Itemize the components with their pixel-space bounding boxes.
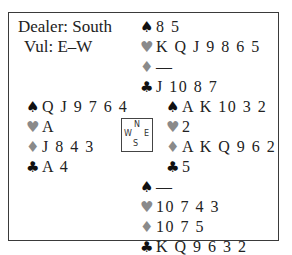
west-hearts-cards: A: [42, 118, 55, 135]
compass-south: S: [133, 140, 138, 148]
south-diamonds: ♦10 7 5: [140, 217, 248, 237]
dealer-label: Dealer: South: [18, 17, 112, 37]
north-hearts-cards: K Q J 9 8 6 5: [156, 38, 261, 55]
north-diamonds-cards: —: [156, 58, 174, 75]
heart-icon: ♥: [140, 37, 156, 57]
east-spades: ♠A K 10 3 2: [166, 97, 276, 117]
vulnerability-label: Vul: E–W: [18, 37, 112, 57]
deal-info: Dealer: South Vul: E–W: [18, 17, 112, 57]
compass-west: W: [124, 130, 132, 138]
north-hand: ♠8 5 ♥K Q J 9 8 6 5 ♦— ♣J 10 8 7: [140, 17, 261, 97]
club-icon: ♣: [140, 77, 156, 97]
west-clubs-cards: A 4: [42, 158, 69, 175]
north-spades: ♠8 5: [140, 17, 261, 37]
diamond-icon: ♦: [140, 217, 156, 237]
south-clubs: ♣K Q 9 6 3 2: [140, 237, 248, 255]
east-hearts: ♥2: [166, 117, 276, 137]
club-icon: ♣: [140, 237, 156, 255]
diamond-icon: ♦: [140, 57, 156, 77]
west-diamonds-cards: J 8 4 3: [42, 138, 95, 155]
east-clubs-cards: 5: [182, 158, 192, 175]
north-clubs-cards: J 10 8 7: [156, 78, 218, 95]
west-spades: ♠Q J 9 7 6 4: [26, 97, 128, 117]
spade-icon: ♠: [166, 97, 182, 117]
south-clubs-cards: K Q 9 6 3 2: [156, 238, 248, 255]
west-spades-cards: Q J 9 7 6 4: [42, 98, 128, 115]
north-hearts: ♥K Q J 9 8 6 5: [140, 37, 261, 57]
compass-box: N W E S: [121, 118, 153, 152]
east-spades-cards: A K 10 3 2: [182, 98, 267, 115]
west-hearts: ♥A: [26, 117, 128, 137]
west-diamonds: ♦J 8 4 3: [26, 137, 128, 157]
south-spades: ♠—: [140, 177, 248, 197]
diamond-icon: ♦: [166, 137, 182, 157]
east-hearts-cards: 2: [182, 118, 192, 135]
spade-icon: ♠: [140, 177, 156, 197]
heart-icon: ♥: [140, 197, 156, 217]
west-clubs: ♣A 4: [26, 157, 128, 177]
south-hearts-cards: 10 7 4 3: [156, 198, 220, 215]
north-spades-cards: 8 5: [156, 18, 181, 35]
west-hand: ♠Q J 9 7 6 4 ♥A ♦J 8 4 3 ♣A 4: [26, 97, 128, 177]
spade-icon: ♠: [140, 17, 156, 37]
diamond-icon: ♦: [26, 137, 42, 157]
club-icon: ♣: [166, 157, 182, 177]
south-diamonds-cards: 10 7 5: [156, 218, 205, 235]
heart-icon: ♥: [26, 117, 42, 137]
north-clubs: ♣J 10 8 7: [140, 77, 261, 97]
south-spades-cards: —: [156, 178, 174, 195]
compass-north: N: [134, 121, 140, 129]
east-diamonds: ♦A K Q 9 6 2: [166, 137, 276, 157]
east-clubs: ♣5: [166, 157, 276, 177]
compass-east: E: [144, 130, 149, 138]
east-diamonds-cards: A K Q 9 6 2: [182, 138, 276, 155]
south-hearts: ♥10 7 4 3: [140, 197, 248, 217]
south-hand: ♠— ♥10 7 4 3 ♦10 7 5 ♣K Q 9 6 3 2: [140, 177, 248, 255]
spade-icon: ♠: [26, 97, 42, 117]
club-icon: ♣: [26, 157, 42, 177]
east-hand: ♠A K 10 3 2 ♥2 ♦A K Q 9 6 2 ♣5: [166, 97, 276, 177]
north-diamonds: ♦—: [140, 57, 261, 77]
heart-icon: ♥: [166, 117, 182, 137]
